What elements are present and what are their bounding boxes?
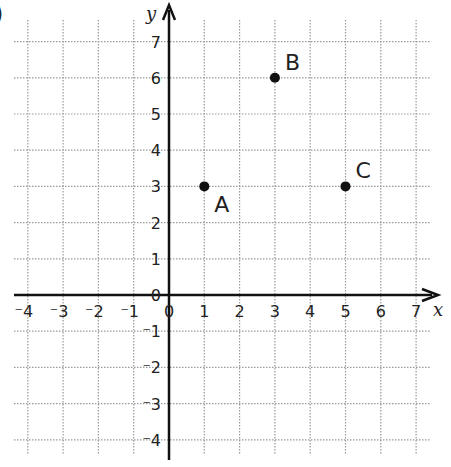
x-tick-label: ⁻1 <box>120 302 139 321</box>
x-tick-label: 1 <box>199 302 209 321</box>
x-tick-label: ⁻4 <box>14 302 33 321</box>
x-tick-label: 6 <box>376 302 386 321</box>
y-tick-label: 6 <box>151 69 161 88</box>
data-point-b <box>270 73 280 83</box>
coordinate-grid-figure: ) xy⁻4⁻3⁻2⁻101234567⁻4⁻3⁻2⁻112345670ABC <box>0 0 451 467</box>
y-axis-label: y <box>145 3 157 24</box>
x-tick-label: 0 <box>164 302 174 321</box>
data-point-c <box>341 181 351 191</box>
y-tick-label: 5 <box>151 105 161 124</box>
x-tick-label: 4 <box>305 302 315 321</box>
y-tick-label: ⁻2 <box>142 358 161 377</box>
x-tick-label: 2 <box>235 302 245 321</box>
origin-label: 0 <box>151 286 161 305</box>
x-tick-label: ⁻2 <box>85 302 104 321</box>
point-label-b: B <box>285 50 300 75</box>
coordinate-plane: xy⁻4⁻3⁻2⁻101234567⁻4⁻3⁻2⁻112345670ABC <box>0 0 451 467</box>
x-tick-label: 3 <box>270 302 280 321</box>
x-axis-label: x <box>433 299 443 320</box>
x-tick-label: ⁻3 <box>50 302 69 321</box>
point-label-c: C <box>356 158 371 183</box>
point-label-a: A <box>214 192 229 217</box>
y-tick-label: ⁻1 <box>142 322 161 341</box>
figure-corner-mark: ) <box>0 0 3 28</box>
y-tick-label: ⁻4 <box>142 431 161 450</box>
x-tick-label: 7 <box>411 302 421 321</box>
x-tick-label: 5 <box>340 302 350 321</box>
y-tick-label: 3 <box>151 177 161 196</box>
y-tick-label: 1 <box>151 250 161 269</box>
data-point-a <box>199 181 209 191</box>
y-tick-label: 4 <box>151 141 161 160</box>
y-tick-label: 2 <box>151 214 161 233</box>
y-tick-label: ⁻3 <box>142 395 161 414</box>
y-tick-label: 7 <box>151 33 161 52</box>
